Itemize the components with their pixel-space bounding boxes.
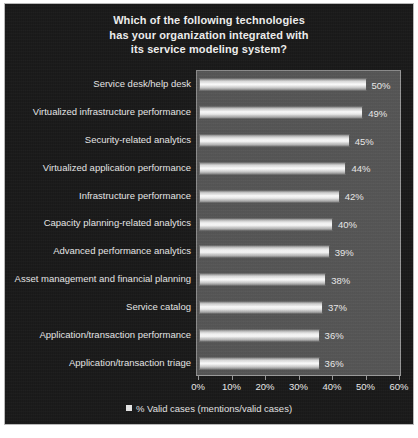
category-label: Service catalog [11, 293, 196, 321]
bar-fill [199, 218, 333, 231]
bar-fill [199, 357, 320, 370]
x-tick-label: 50% [356, 381, 375, 392]
category-label: Security-related analytics [11, 126, 196, 154]
x-tick-label: 0% [191, 381, 205, 392]
bar-fill [199, 162, 346, 175]
x-tick-mark [265, 376, 266, 380]
bar: 40% [199, 218, 333, 231]
x-tick-mark [332, 376, 333, 380]
x-tick-mark [232, 376, 233, 380]
bar-fill [199, 245, 330, 258]
bar: 49% [199, 106, 363, 119]
chart-title: Which of the following technologies has … [5, 13, 413, 57]
x-tick-mark [366, 376, 367, 380]
chart-title-line-1: Which of the following technologies [5, 13, 413, 28]
category-label: Asset management and financial planning [11, 265, 196, 293]
x-tick-mark [299, 376, 300, 380]
category-label: Virtualized application performance [11, 153, 196, 181]
category-label: Virtualized infrastructure performance [11, 98, 196, 126]
bar: 37% [199, 301, 323, 314]
bar: 50% [199, 78, 367, 91]
bar: 36% [199, 357, 320, 370]
bar-value-label: 38% [326, 274, 350, 285]
bar-value-label: 36% [320, 358, 344, 369]
category-label: Application/transaction triage [11, 348, 196, 376]
chart-title-line-3: its service modeling system? [5, 42, 413, 57]
category-label: Capacity planning-related analytics [11, 209, 196, 237]
bar: 44% [199, 162, 346, 175]
category-label: Infrastructure performance [11, 181, 196, 209]
bar: 42% [199, 190, 340, 203]
bar-value-label: 42% [340, 191, 364, 202]
bar-value-label: 45% [350, 135, 374, 146]
bar-fill [199, 301, 323, 314]
x-axis: 0%10%20%30%40%50%60% [196, 376, 401, 396]
bar-fill [199, 273, 326, 286]
x-tick-mark [399, 376, 400, 380]
category-axis: Service desk/help deskVirtualized infras… [11, 70, 196, 376]
category-label: Application/transaction performance [11, 320, 196, 348]
x-tick-label: 60% [389, 381, 408, 392]
bar-fill [199, 78, 367, 91]
bar-value-label: 50% [367, 79, 391, 90]
bar-value-label: 40% [333, 219, 357, 230]
bar-value-label: 39% [330, 246, 354, 257]
bar-fill [199, 134, 350, 147]
x-tick-label: 20% [255, 381, 274, 392]
x-tick-label: 10% [222, 381, 241, 392]
category-label: Service desk/help desk [11, 70, 196, 98]
bar: 38% [199, 273, 326, 286]
bar-value-label: 49% [363, 107, 387, 118]
bars-layer: 50%49%45%44%42%40%39%38%37%36%36% [197, 71, 400, 375]
bar-value-label: 37% [323, 302, 347, 313]
bar-fill [199, 190, 340, 203]
bar-value-label: 44% [346, 163, 370, 174]
x-tick-label: 30% [289, 381, 308, 392]
bar-fill [199, 329, 320, 342]
category-label: Advanced performance analytics [11, 237, 196, 265]
bar: 45% [199, 134, 350, 147]
bar-value-label: 36% [320, 330, 344, 341]
bar-fill [199, 106, 363, 119]
legend-label: % Valid cases (mentions/valid cases) [136, 403, 292, 414]
x-tick-label: 40% [322, 381, 341, 392]
chart-title-line-2: has your organization integrated with [5, 28, 413, 43]
chart-panel: Which of the following technologies has … [4, 3, 414, 425]
legend-swatch-icon [126, 405, 132, 411]
bar: 39% [199, 245, 330, 258]
plot-area: 50%49%45%44%42%40%39%38%37%36%36% [196, 70, 401, 376]
x-tick-mark [198, 376, 199, 380]
chart-legend: % Valid cases (mentions/valid cases) [5, 403, 413, 414]
bar: 36% [199, 329, 320, 342]
